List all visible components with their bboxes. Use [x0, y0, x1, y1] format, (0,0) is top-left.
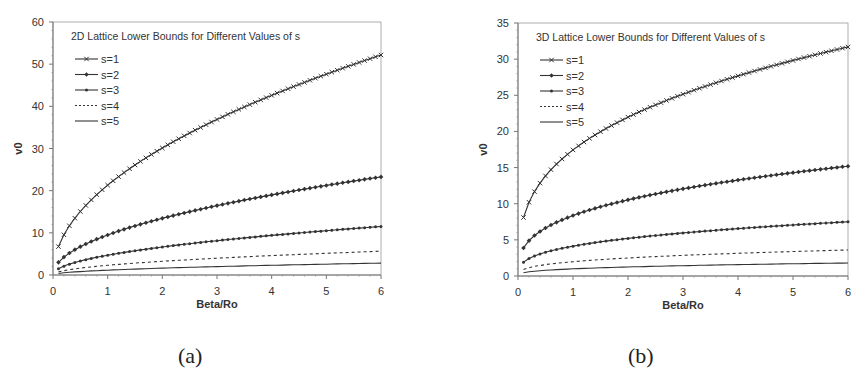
legend-item: s=5: [540, 116, 584, 128]
x-tick-label: 6: [845, 286, 851, 298]
y-tick-label: 5: [503, 234, 509, 246]
caption-b: (b): [628, 343, 654, 369]
x-tick-label: 3: [214, 285, 220, 297]
legend-item: s=5: [75, 115, 119, 127]
legend-label: s=1: [566, 54, 584, 66]
chart-title: 2D Lattice Lower Bounds for Different Va…: [71, 30, 300, 42]
y-tick-label: 0: [38, 269, 44, 281]
x-axis-label: Beta/Ro: [196, 298, 238, 310]
legend-label: s=5: [101, 115, 119, 127]
legend-item: s=3: [75, 84, 119, 96]
y-tick-label: 20: [497, 125, 509, 137]
x-tick-label: 5: [790, 286, 796, 298]
series-line: [59, 177, 382, 262]
series-line: [59, 227, 382, 269]
x-tick-label: 0: [515, 286, 521, 298]
series-line: [524, 222, 849, 262]
series-s-3: [522, 220, 850, 263]
x-tick-label: 2: [159, 285, 165, 297]
legend-label: s=4: [101, 100, 119, 112]
y-tick-label: 50: [32, 58, 44, 70]
x-tick-label: 6: [378, 285, 384, 297]
x-axis-label: Beta/Ro: [662, 299, 704, 311]
legend-item: s=2: [540, 70, 584, 82]
series-s-1: [56, 53, 383, 249]
legend-label: s=5: [566, 116, 584, 128]
series-line: [524, 263, 849, 273]
legend-item: s=2: [75, 69, 119, 81]
y-tick-label: 20: [32, 185, 44, 197]
x-tick-label: 2: [625, 286, 631, 298]
series-s-2: [521, 164, 850, 250]
chart-panel-a: 01020304050600123456Beta/Rov02D Lattice …: [0, 0, 430, 330]
series-line: [524, 250, 849, 269]
chart-title: 3D Lattice Lower Bounds for Different Va…: [536, 31, 765, 43]
chart-panel-b: 051015202530350123456Beta/Rov03D Lattice…: [430, 0, 853, 330]
y-tick-label: 10: [32, 227, 44, 239]
chart-2d-lattice: 01020304050600123456Beta/Rov02D Lattice …: [0, 0, 430, 330]
series-line: [524, 166, 849, 248]
y-tick-label: 25: [497, 89, 509, 101]
legend-item: s=1: [540, 54, 584, 66]
legend-item: s=4: [75, 100, 119, 112]
chart-3d-lattice: 051015202530350123456Beta/Rov03D Lattice…: [430, 0, 853, 330]
legend-label: s=4: [566, 101, 584, 113]
x-tick-label: 4: [735, 286, 741, 298]
legend-label: s=1: [101, 53, 119, 65]
series-s-4: [524, 250, 849, 269]
x-tick-label: 0: [50, 285, 56, 297]
series-s-2: [56, 175, 383, 265]
series-s-5: [524, 263, 849, 273]
legend-label: s=2: [566, 70, 584, 82]
legend-label: s=2: [101, 69, 119, 81]
legend-label: s=3: [101, 84, 119, 96]
legend-item: s=4: [540, 101, 584, 113]
legend-item: s=1: [75, 53, 119, 65]
y-tick-label: 40: [32, 100, 44, 112]
legend-label: s=3: [566, 85, 584, 97]
series-line: [59, 263, 382, 273]
x-tick-label: 1: [570, 286, 576, 298]
y-tick-label: 15: [497, 162, 509, 174]
y-axis-label: v0: [477, 143, 489, 155]
series-s-5: [59, 263, 382, 273]
caption-a: (a): [178, 343, 202, 369]
y-axis-label: v0: [12, 142, 24, 154]
x-tick-label: 1: [105, 285, 111, 297]
y-tick-label: 30: [32, 143, 44, 155]
x-tick-label: 3: [680, 286, 686, 298]
y-tick-label: 60: [32, 16, 44, 28]
legend-item: s=3: [540, 85, 584, 97]
y-tick-label: 0: [503, 270, 509, 282]
y-tick-label: 10: [497, 198, 509, 210]
y-tick-label: 30: [497, 53, 509, 65]
x-tick-label: 5: [323, 285, 329, 297]
y-tick-label: 35: [497, 17, 509, 29]
x-tick-label: 4: [269, 285, 275, 297]
